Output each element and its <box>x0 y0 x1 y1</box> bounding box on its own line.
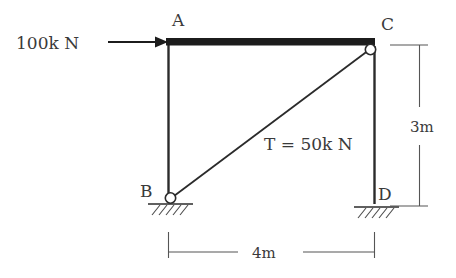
pin-joint-b-icon <box>165 193 175 203</box>
structural-diagram: 100k N A C B D T = 50k N 3m 4m <box>0 0 456 278</box>
tie-force-label: T = 50k N <box>264 134 353 154</box>
support-d-hatch-icon <box>358 208 394 218</box>
node-label-b: B <box>140 181 153 201</box>
support-b-hatch-icon <box>152 205 188 215</box>
member-diagonal-tie <box>170 47 373 199</box>
member-top-beam <box>166 38 375 46</box>
node-label-d: D <box>378 184 392 204</box>
node-label-c: C <box>381 14 394 34</box>
dimension-label-height: 3m <box>410 118 434 136</box>
node-label-a: A <box>171 10 185 30</box>
diagram-canvas: 100k N A C B D T = 50k N 3m 4m <box>0 0 456 278</box>
load-label: 100k N <box>16 33 79 53</box>
dimension-label-span: 4m <box>252 244 276 262</box>
pin-joint-c-icon <box>365 44 375 54</box>
